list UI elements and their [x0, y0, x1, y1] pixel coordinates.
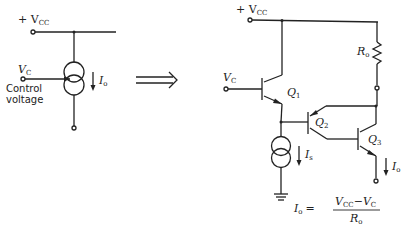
q3-label: Q3 — [368, 133, 382, 147]
right-vc-terminal — [224, 87, 228, 91]
is-label: Is — [304, 148, 313, 162]
svg-text:VCC−VC: VCC−VC — [335, 195, 376, 209]
left-vcc-label: + VCC — [18, 13, 49, 27]
ground-icon — [274, 194, 288, 200]
diagram-svg: + VCC VC Control voltage Io + VCC — [0, 0, 406, 230]
left-vc-terminal — [21, 77, 25, 81]
left-vcc-terminal — [31, 30, 35, 34]
control-voltage-label-line1: Control — [6, 83, 42, 94]
right-io-label: Io — [391, 160, 401, 174]
left-circuit: + VCC VC Control voltage Io — [6, 13, 116, 130]
q1-label: Q1 — [287, 86, 301, 100]
control-voltage-label-line2: voltage — [6, 94, 43, 105]
svg-text:Ro: Ro — [349, 212, 363, 226]
output-current-equation: Io= VCC−VC Ro — [293, 195, 380, 226]
implies-arrow-icon — [136, 72, 177, 88]
right-vcc-terminal — [248, 18, 252, 22]
q2-label: Q2 — [315, 116, 329, 130]
right-vc-label: VC — [223, 71, 236, 85]
svg-text:Io=: Io= — [293, 202, 315, 216]
bias-current-source-bottom — [272, 149, 291, 168]
left-vc-label: VC — [18, 63, 31, 77]
left-bottom-terminal — [72, 126, 76, 130]
resistor-ro — [373, 42, 381, 64]
bias-current-source-top — [272, 137, 291, 156]
ro-label: Ro — [356, 45, 370, 59]
left-io-label: Io — [98, 74, 108, 88]
output-terminal — [374, 179, 378, 183]
right-vcc-label: + VCC — [236, 3, 267, 17]
resistor-terminal — [375, 86, 379, 90]
circuit-diagram: + VCC VC Control voltage Io + VCC — [0, 0, 406, 230]
right-circuit: + VCC VC Q1 Q2 Q3 — [223, 3, 401, 200]
